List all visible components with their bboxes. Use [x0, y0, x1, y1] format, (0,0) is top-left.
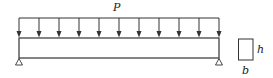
beam-diagram: P h b — [0, 0, 273, 78]
distributed-load — [17, 18, 222, 38]
load-arrows — [17, 18, 222, 38]
right-pin-support-icon — [216, 59, 223, 66]
section-height-label: h — [257, 43, 264, 56]
arrowhead-icon — [177, 31, 182, 38]
arrowhead-icon — [157, 31, 162, 38]
arrowhead-icon — [97, 31, 102, 38]
arrowhead-icon — [197, 31, 202, 38]
arrowhead-icon — [17, 31, 22, 38]
arrowhead-icon — [37, 31, 42, 38]
arrowhead-icon — [217, 31, 222, 38]
arrowhead-icon — [137, 31, 142, 38]
arrowhead-icon — [77, 31, 82, 38]
beam — [19, 38, 219, 58]
cross-section — [239, 39, 254, 60]
arrowhead-icon — [117, 31, 122, 38]
load-label: P — [112, 1, 121, 14]
arrowhead-icon — [57, 31, 62, 38]
section-width-label: b — [242, 64, 249, 77]
left-pin-support-icon — [16, 59, 23, 66]
